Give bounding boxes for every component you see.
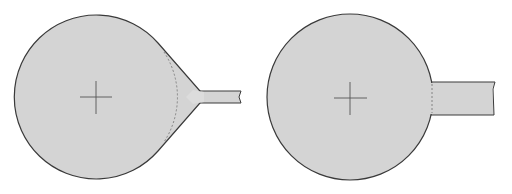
right-trace (425, 82, 495, 115)
teardrop-pad-figure (14, 15, 241, 179)
pad-diagram (0, 0, 512, 194)
plain-pad-figure (267, 14, 495, 180)
